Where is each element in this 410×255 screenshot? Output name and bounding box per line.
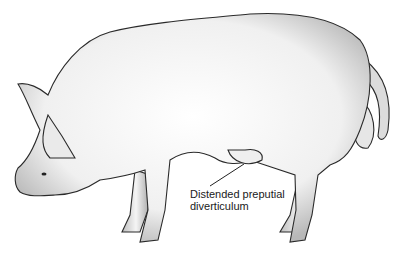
pig-drawing (0, 0, 410, 255)
annotation-line-1: Distended preputial (190, 188, 285, 200)
pig-figure: Distended preputial diverticulum (0, 0, 410, 255)
annotation-pointer (210, 164, 244, 186)
annotation-label: Distended preputial diverticulum (190, 188, 285, 212)
eye (42, 173, 47, 176)
annotation-line-2: diverticulum (190, 200, 285, 212)
